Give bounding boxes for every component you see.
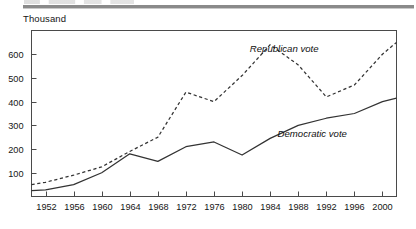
x-axis-tick-label: 1984: [260, 202, 280, 212]
x-axis-tick-label: 1980: [232, 202, 252, 212]
x-axis-tick-label: 1952: [36, 202, 56, 212]
y-axis-tick-label: 600: [8, 50, 23, 60]
x-axis-tick-label: 2000: [372, 202, 392, 212]
chart-page: Thousand 1002003004005006001952195619601…: [0, 0, 416, 229]
x-axis-tick-label: 1968: [148, 202, 168, 212]
x-axis-tick-label: 1960: [92, 202, 112, 212]
y-axis-tick-label: 100: [8, 169, 23, 179]
x-axis-tick-label: 1976: [204, 202, 224, 212]
series-line-democratic-vote: [32, 98, 397, 190]
y-axis-tick-label: 400: [8, 98, 23, 108]
x-axis-tick-label: 1988: [288, 202, 308, 212]
plot-frame: [32, 31, 397, 197]
y-axis-tick-label: 200: [8, 145, 23, 155]
y-axis-tick-label: 300: [8, 121, 23, 131]
x-axis-tick-label: 1956: [64, 202, 84, 212]
series-line-republican-vote: [32, 42, 397, 184]
line-chart: 1002003004005006001952195619601964196819…: [0, 0, 416, 229]
x-axis-tick-label: 1964: [120, 202, 140, 212]
x-axis-tick-label: 1992: [316, 202, 336, 212]
y-axis-tick-label: 500: [8, 74, 23, 84]
series-annotation-republican-vote: Republican vote: [250, 43, 319, 54]
chart-svg: 1002003004005006001952195619601964196819…: [0, 0, 416, 229]
x-axis-tick-label: 1996: [344, 202, 364, 212]
series-annotation-democratic-vote: Democratic vote: [278, 128, 347, 139]
x-axis-tick-label: 1972: [176, 202, 196, 212]
